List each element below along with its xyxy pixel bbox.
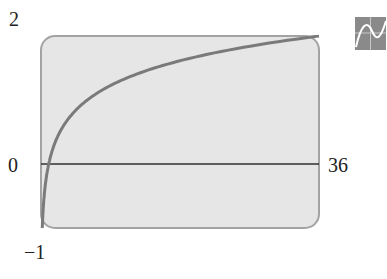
chart-svg xyxy=(0,0,387,279)
y-tick-bottom: −1 xyxy=(24,242,45,262)
y-tick-top: 2 xyxy=(9,9,19,29)
plot-panel xyxy=(41,36,319,228)
x-tick-right: 36 xyxy=(328,155,348,175)
graph-icon xyxy=(355,17,386,50)
y-tick-zero: 0 xyxy=(8,155,18,175)
